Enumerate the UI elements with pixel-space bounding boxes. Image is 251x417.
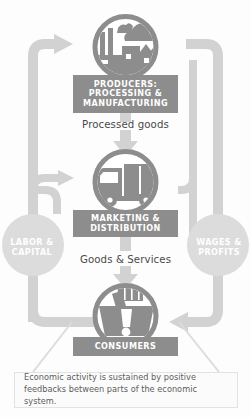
economic-cycle-diagram: PRODUCERS: PROCESSING & MANUFACTURING MA… [0,0,251,417]
delivery-truck-icon [93,149,163,215]
caption-text: Economic activity is sustained by positi… [24,372,228,408]
node-label-marketing: MARKETING & DISTRIBUTION [73,210,178,237]
caption-box: Economic activity is sustained by positi… [14,372,238,408]
flow-label-processed-goods: Processed goods [0,119,251,130]
side-circle-label-labor-capital: LABOR & CAPITAL [3,238,61,257]
factory-icon [92,14,168,80]
node-label-consumers: CONSUMERS [73,337,178,356]
node-label-producers: PRODUCERS: PROCESSING & MANUFACTURING [73,75,178,113]
side-circle-label-wages-profits: WAGES & PROFITS [190,238,248,257]
